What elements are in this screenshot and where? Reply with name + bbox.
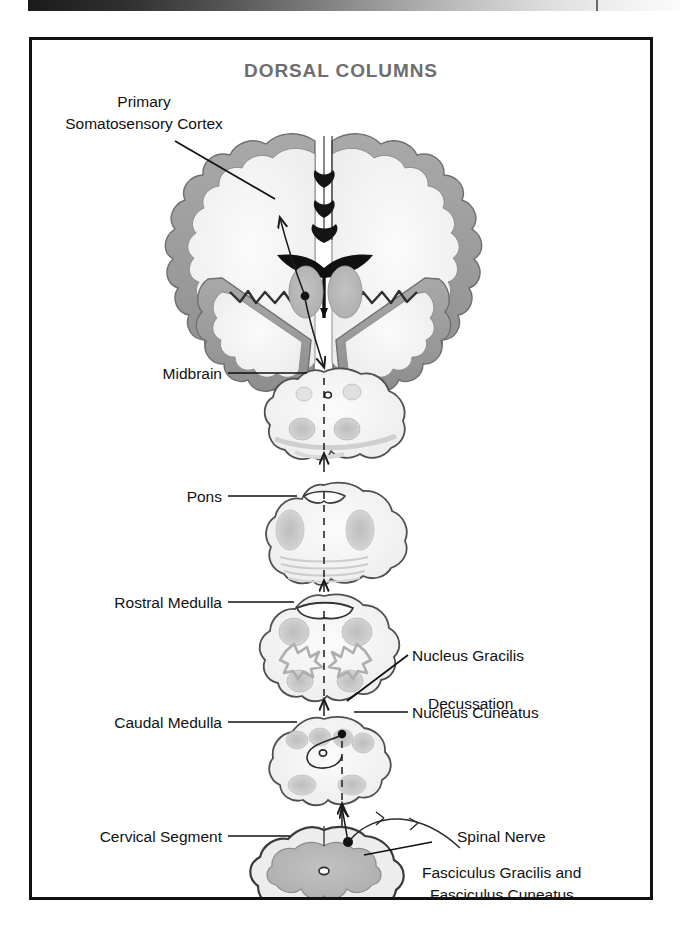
midbrain-section [265,368,405,459]
label-nucleus-gracilis: Nucleus Gracilis [412,647,524,664]
scan-gradient-tick [596,0,598,11]
rostral-medulla-section [260,594,400,701]
dorsal-columns-diagram: Primary Somatosensory Cortex Midbrain Po… [32,40,656,897]
label-primary-cortex-line2: Somatosensory Cortex [65,115,223,132]
scan-gradient-bar [28,0,680,11]
label-midbrain: Midbrain [163,365,222,382]
label-fasciculus-line1: Fasciculus Gracilis and [422,864,581,881]
figure-frame: DORSAL COLUMNS [29,37,653,900]
caudal-medulla-section [269,717,391,805]
label-fasciculus-line2: Fasciculus Cuneatus [430,886,574,897]
label-caudal-medulla: Caudal Medulla [114,714,222,731]
label-primary-cortex-line1: Primary [117,93,171,110]
label-rostral-medulla: Rostral Medulla [114,594,222,611]
pons-section [266,483,407,585]
label-pons: Pons [187,488,223,505]
label-nucleus-cuneatus: Nucleus Cuneatus [412,704,539,721]
cerebral-cortex-coronal-section [165,134,481,393]
label-spinal-nerve: Spinal Nerve [457,828,546,845]
label-cervical-segment: Cervical Segment [100,828,223,845]
